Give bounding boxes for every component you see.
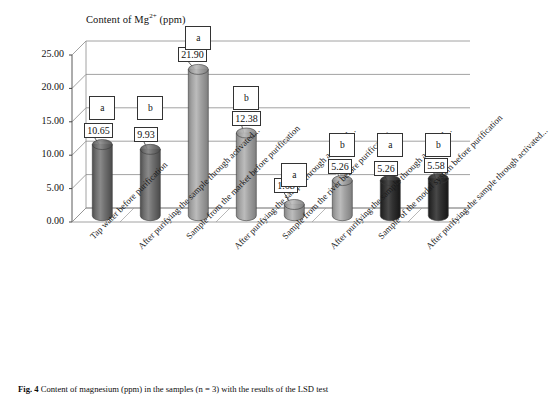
significance-letter-box: b xyxy=(329,133,355,157)
bar-cylinder xyxy=(92,140,112,221)
y-axis-tick-label: 10.00 xyxy=(22,148,64,159)
y-axis-tick-label: 0.00 xyxy=(22,215,64,226)
significance-letter-box: a xyxy=(185,26,211,50)
figure-caption-label: Fig. 4 xyxy=(18,384,39,394)
bar-value-label: 5.58 xyxy=(424,158,448,173)
y-axis-tick-label: 5.00 xyxy=(22,182,64,193)
bar-value-label: 9.93 xyxy=(134,127,158,142)
significance-letter-box: b xyxy=(425,133,451,157)
bar-value-label: 5.26 xyxy=(328,159,352,174)
significance-letter-box: b xyxy=(233,86,259,110)
figure-caption-text: Content of magnesium (ppm) in the sample… xyxy=(41,384,328,394)
bar-value-label: 12.38 xyxy=(232,111,261,126)
y-axis-tick-label: 15.00 xyxy=(22,115,64,126)
figure-caption: Fig. 4 Content of magnesium (ppm) in the… xyxy=(18,384,462,394)
y-axis-tick-label: 20.00 xyxy=(22,81,64,92)
significance-letter-box: a xyxy=(89,96,115,120)
y-axis-tick-label: 25.00 xyxy=(22,48,64,59)
bar-value-label: 5.26 xyxy=(374,161,398,176)
significance-letter-box: a xyxy=(281,163,307,187)
significance-letter-box: a xyxy=(377,133,403,157)
significance-letter-box: b xyxy=(137,96,163,120)
bar-value-label: 10.65 xyxy=(84,123,113,138)
